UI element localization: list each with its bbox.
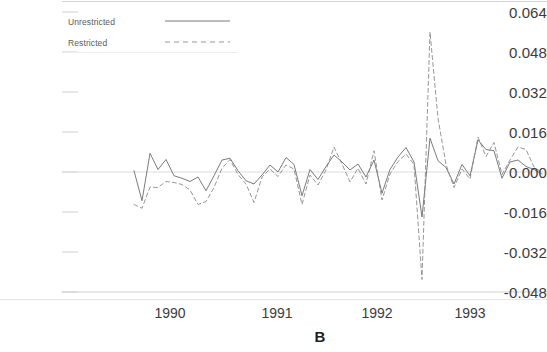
series-line-unrestricted	[134, 138, 542, 217]
legend-label-restricted: Restricted	[68, 38, 107, 48]
chart-panel-b: 0.064 0.048 0.032 0.016 0.000 -0.016 -0.…	[0, 0, 547, 352]
xtick-label-1992: 1992	[361, 306, 392, 320]
ytick-label-neg0016: -0.016	[489, 205, 547, 220]
ytick-label-0064: 0.064	[489, 5, 547, 20]
panel-label: B	[315, 328, 326, 345]
ytick-label-0016: 0.016	[489, 125, 547, 140]
data-series-lines	[134, 32, 542, 280]
ytick-label-0000: 0.000	[489, 165, 547, 180]
ytick-label-neg0032: -0.032	[489, 245, 547, 260]
xtick-label-1993: 1993	[454, 306, 485, 320]
xtick-label-1991: 1991	[261, 306, 292, 320]
legend-label-unrestricted: Unrestricted	[68, 17, 115, 27]
ytick-label-neg0048: -0.048	[489, 285, 547, 300]
ytick-label-0048: 0.048	[489, 45, 547, 60]
ytick-label-0032: 0.032	[489, 85, 547, 100]
xtick-label-1990: 1990	[154, 306, 185, 320]
series-line-restricted	[134, 32, 542, 280]
chart-plot-area	[0, 0, 547, 352]
